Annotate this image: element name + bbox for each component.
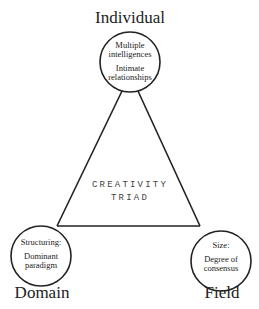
domain-text-3: paradigm (6, 261, 76, 271)
edge-individual-field (138, 91, 200, 226)
individual-label: Individual (80, 8, 180, 28)
domain-label: Domain (0, 283, 84, 303)
edge-individual-domain (57, 91, 122, 226)
field-text-1: Size: (186, 241, 256, 251)
center-title-line2: TRIAD (80, 192, 180, 205)
field-label: Field (180, 283, 259, 303)
center-title-line1: CREATIVITY (80, 179, 180, 192)
individual-text-2: intelligences (95, 50, 165, 60)
field-text-3: consensus (186, 264, 256, 274)
domain-text-1: Structuring: (6, 238, 76, 248)
individual-text-4: relationships (95, 73, 165, 83)
